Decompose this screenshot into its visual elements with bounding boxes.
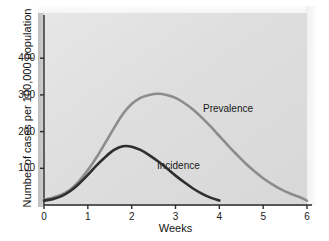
axis-ticks <box>40 58 307 209</box>
series-line-incidence <box>44 146 219 201</box>
plot-svg <box>0 0 329 241</box>
series-line-prevalence <box>44 94 307 201</box>
data-series <box>44 94 307 201</box>
chart-figure: Prevalence Incidence Number of cases per… <box>0 0 329 241</box>
